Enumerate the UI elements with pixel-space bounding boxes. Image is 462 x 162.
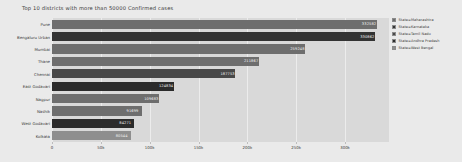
legend-label: State=Tamil Nadu: [399, 32, 431, 36]
bar[interactable]: [52, 32, 375, 41]
bar-row[interactable]: 91699Nashik: [52, 106, 389, 115]
bar-value-label: 91699: [127, 109, 139, 113]
legend-label: State=West Bengal: [399, 46, 434, 50]
bar[interactable]: [52, 44, 305, 53]
legend-label: State=Andhra Pradesh: [399, 39, 440, 43]
y-axis-tick-label: West Godavari: [22, 121, 50, 126]
legend-item[interactable]: State=Karnataka: [392, 23, 460, 30]
y-axis-tick-label: Bengaluru Urban: [17, 34, 50, 39]
x-axis: 050k100k150k200k250k300k: [52, 142, 389, 156]
bar-value-label: 332582: [362, 22, 376, 26]
bar-value-label: 84271: [119, 121, 131, 125]
legend-item[interactable]: State=West Bengal: [392, 44, 460, 51]
bar-value-label: 211867: [244, 59, 258, 63]
y-axis-tick-label: Pune: [40, 22, 50, 27]
legend-swatch-icon: [392, 18, 396, 22]
x-axis-tick-mark: [199, 142, 200, 144]
x-axis-tick-label: 100k: [145, 145, 155, 150]
bar-row[interactable]: 124834East Godavari: [52, 82, 389, 91]
legend-swatch-icon: [392, 46, 396, 50]
bar[interactable]: [52, 82, 174, 91]
bar-row[interactable]: 330862Bengaluru Urban: [52, 32, 389, 41]
x-axis-tick-label: 250k: [291, 145, 301, 150]
y-axis-tick-label: Nashik: [37, 108, 50, 113]
bar-value-label: 259248: [290, 47, 304, 51]
bar-row[interactable]: 109683Nagpur: [52, 94, 389, 103]
x-axis-tick-mark: [345, 142, 346, 144]
legend-swatch-icon: [392, 25, 396, 29]
bar-value-label: 330862: [360, 35, 374, 39]
x-axis-tick-mark: [150, 142, 151, 144]
chart-legend: State=MaharashtraState=KarnatakaState=Ta…: [392, 16, 460, 51]
bar-row[interactable]: 332582Pune: [52, 20, 389, 29]
bar-value-label: 124834: [159, 84, 173, 88]
x-axis-tick-mark: [52, 142, 53, 144]
legend-label: State=Maharashtra: [399, 18, 434, 22]
chart-title: Top 10 districts with more than 50000 Co…: [22, 5, 173, 11]
bar-chart-figure: Top 10 districts with more than 50000 Co…: [0, 0, 462, 162]
legend-swatch-icon: [392, 39, 396, 43]
x-axis-tick-mark: [101, 142, 102, 144]
legend-item[interactable]: State=Maharashtra: [392, 16, 460, 23]
y-axis-tick-label: Mumbai: [34, 46, 50, 51]
bar[interactable]: [52, 57, 259, 66]
bar-value-label: 80544: [116, 134, 128, 138]
x-axis-tick-label: 0: [51, 145, 53, 150]
plot-area: 332582Pune330862Bengaluru Urban259248Mum…: [52, 18, 389, 142]
x-axis-tick-label: 50k: [97, 145, 104, 150]
bar-row[interactable]: 187753Chennai: [52, 69, 389, 78]
bar-value-label: 109683: [144, 97, 158, 101]
bar-row[interactable]: 80544Kolkata: [52, 131, 389, 140]
y-axis-tick-label: Kolkata: [36, 133, 50, 138]
y-axis-tick-label: East Godavari: [23, 84, 50, 89]
bar-row[interactable]: 211867Thane: [52, 57, 389, 66]
legend-item[interactable]: State=Andhra Pradesh: [392, 37, 460, 44]
bar[interactable]: [52, 94, 159, 103]
bar[interactable]: [52, 20, 377, 29]
bar-value-label: 187753: [220, 72, 234, 76]
x-axis-tick-mark: [296, 142, 297, 144]
x-axis-tick-label: 300k: [340, 145, 350, 150]
bar[interactable]: [52, 69, 235, 78]
y-axis-tick-label: Thane: [38, 59, 50, 64]
legend-item[interactable]: State=Tamil Nadu: [392, 30, 460, 37]
legend-label: State=Karnataka: [399, 25, 430, 29]
x-axis-tick-mark: [247, 142, 248, 144]
x-axis-tick-label: 150k: [194, 145, 204, 150]
bar-row[interactable]: 84271West Godavari: [52, 119, 389, 128]
y-axis-tick-label: Nagpur: [36, 96, 50, 101]
x-axis-tick-label: 200k: [243, 145, 253, 150]
legend-swatch-icon: [392, 32, 396, 36]
y-axis-tick-label: Chennai: [34, 71, 50, 76]
bar-row[interactable]: 259248Mumbai: [52, 44, 389, 53]
